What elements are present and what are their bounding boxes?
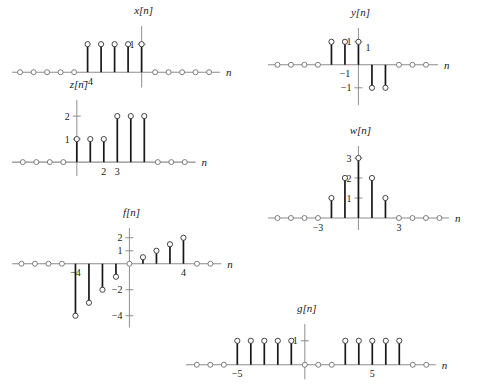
y-tick-label: 2 [117, 232, 122, 243]
zero-sample-marker [47, 160, 52, 165]
zero-sample-marker [32, 261, 37, 266]
signal-title: z[n] [69, 78, 88, 90]
zero-sample-marker [194, 362, 199, 367]
stem-head-marker [343, 338, 348, 343]
stem-head-marker [85, 42, 90, 47]
stem-head-marker [140, 255, 145, 260]
zero-sample-marker [316, 362, 321, 367]
stem-head-marker [383, 338, 388, 343]
y-tick-label: 1 [346, 193, 351, 204]
zero-sample-marker [127, 261, 132, 266]
stem-head-marker [154, 248, 159, 253]
zero-sample-marker [302, 216, 307, 221]
zero-sample-marker [396, 216, 401, 221]
plot-annotation: 1 [365, 42, 370, 53]
zero-sample-marker [410, 362, 415, 367]
axis-name-label: n [227, 258, 233, 270]
zero-sample-marker [45, 70, 50, 75]
zero-sample-marker [315, 216, 320, 221]
stem-head-marker [112, 42, 117, 47]
stem-head-marker [235, 338, 240, 343]
signal-title: w[n] [350, 124, 371, 136]
zero-sample-marker [423, 62, 428, 67]
y-tick-label: 3 [346, 153, 351, 164]
x-tick-label: 5 [370, 368, 375, 379]
plot-w-n: 123−33w[n]n [258, 124, 480, 244]
stem-head-marker [370, 338, 375, 343]
stem-head-marker [139, 42, 144, 47]
zero-sample-marker [208, 362, 213, 367]
stem-head-marker [397, 338, 402, 343]
signal-plot-w: 123−33w[n]n [258, 124, 480, 244]
signal-plot-z: 1223z[n]n [2, 78, 240, 190]
stem-head-marker [356, 155, 361, 160]
zero-sample-marker [275, 216, 280, 221]
zero-sample-marker [207, 70, 212, 75]
stem-head-marker [275, 338, 280, 343]
stem-head-marker [99, 42, 104, 47]
x-tick-label: 4 [181, 267, 186, 278]
x-tick-label: −3 [313, 222, 324, 233]
stem-head-marker [342, 39, 347, 44]
zero-sample-marker [180, 70, 185, 75]
stem-head-marker [125, 42, 130, 47]
zero-sample-marker [59, 261, 64, 266]
stem-head-marker [181, 235, 186, 240]
zero-sample-marker [437, 216, 442, 221]
axis-name-label: n [455, 212, 461, 224]
x-tick-label: −1 [340, 68, 351, 79]
zero-sample-marker [275, 62, 280, 67]
stem-head-marker [88, 136, 93, 141]
zero-sample-marker [424, 362, 429, 367]
signal-title: x[n] [133, 4, 153, 16]
zero-sample-marker [61, 160, 66, 165]
zero-sample-marker [208, 261, 213, 266]
stem-head-marker [101, 136, 106, 141]
stem-head-marker [356, 338, 361, 343]
stem-head-marker [86, 300, 91, 305]
signal-title: f[n] [123, 206, 140, 218]
zero-sample-marker [221, 362, 226, 367]
zero-sample-marker [31, 70, 36, 75]
stem-head-marker [383, 85, 388, 90]
x-tick-label: −5 [232, 368, 243, 379]
zero-sample-marker [155, 160, 160, 165]
signal-plot-g: 1−55g[n]n [176, 302, 480, 384]
zero-sample-marker [18, 70, 23, 75]
y-tick-label: −2 [112, 284, 123, 295]
stem-head-marker [289, 338, 294, 343]
zero-sample-marker [166, 70, 171, 75]
axis-name-label: n [442, 359, 448, 371]
axis-name-label: n [444, 59, 450, 71]
zero-sample-marker [423, 216, 428, 221]
y-tick-label: 1 [117, 245, 122, 256]
zero-sample-marker [19, 261, 24, 266]
stem-head-marker [383, 195, 388, 200]
zero-sample-marker [288, 62, 293, 67]
stem-head-marker [167, 242, 172, 247]
zero-sample-marker [396, 62, 401, 67]
stem-head-marker [262, 338, 267, 343]
zero-sample-marker [182, 160, 187, 165]
zero-sample-marker [34, 160, 39, 165]
zero-sample-marker [46, 261, 51, 266]
zero-sample-marker [302, 62, 307, 67]
signal-plot-y: 1−1−11y[n]n [258, 6, 480, 119]
stem-head-marker [329, 195, 334, 200]
stem-head-marker [73, 313, 78, 318]
x-tick-label: 3 [396, 222, 401, 233]
stem-head-marker [142, 113, 147, 118]
zero-sample-marker [153, 70, 158, 75]
zero-sample-marker [410, 62, 415, 67]
stem-head-marker [100, 287, 105, 292]
zero-sample-marker [315, 62, 320, 67]
y-tick-label: 2 [65, 111, 70, 122]
y-tick-label: 1 [65, 134, 70, 145]
stem-head-marker [128, 113, 133, 118]
zero-sample-marker [302, 362, 307, 367]
stem-head-marker [356, 39, 361, 44]
zero-sample-marker [72, 70, 77, 75]
zero-sample-marker [410, 216, 415, 221]
zero-sample-marker [329, 362, 334, 367]
